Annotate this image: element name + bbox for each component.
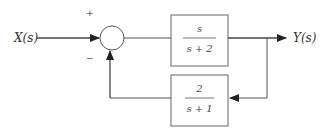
minus-sign: − <box>86 53 94 63</box>
block-diagram: X(s) + − s s + 2 Y(s) 2 s + 1 <box>0 0 325 135</box>
input-label: X(s) <box>13 31 38 45</box>
summing-junction <box>100 26 124 50</box>
plus-sign: + <box>86 8 94 18</box>
output-label: Y(s) <box>293 31 317 45</box>
feedback-numerator: 2 <box>195 83 202 94</box>
feedback-denominator: s + 1 <box>186 103 212 114</box>
forward-denominator: s + 2 <box>186 43 212 54</box>
forward-numerator: s <box>197 23 202 34</box>
